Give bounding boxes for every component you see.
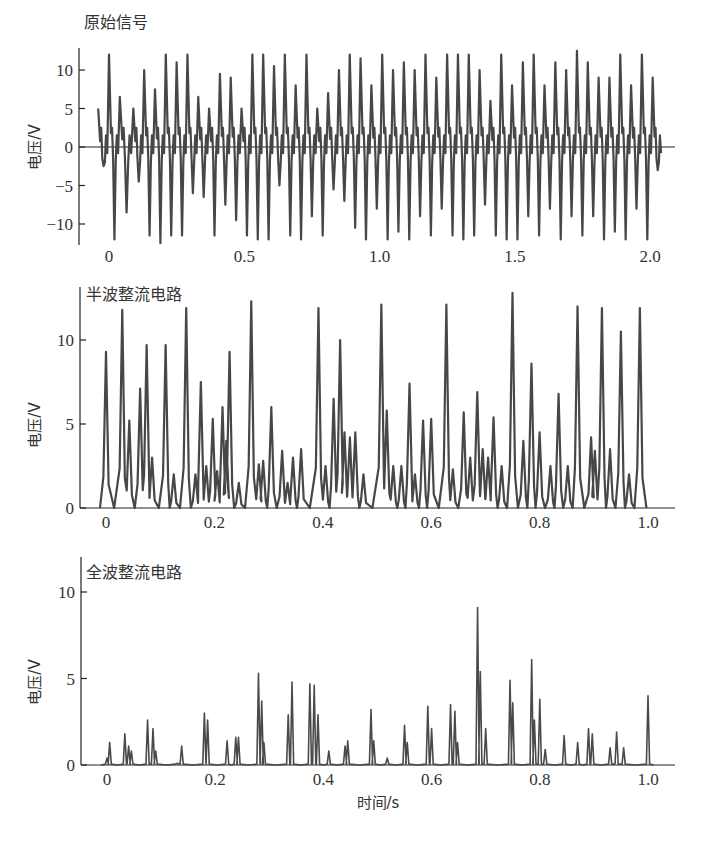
y-tick-label: −10 bbox=[46, 215, 73, 234]
x-tick-label: 0.6 bbox=[421, 770, 442, 789]
x-tick-label: 0 bbox=[103, 770, 112, 789]
y-tick-label: 5 bbox=[67, 670, 76, 689]
trace-full-wave bbox=[101, 608, 654, 765]
panel-title-raw: 原始信号 bbox=[84, 13, 148, 32]
x-tick-label: 0.6 bbox=[421, 513, 442, 532]
figure: 原始信号 电压/V 1050−5−1000.51.01.52.0 半波整流电路 … bbox=[0, 0, 701, 841]
y-tick-label: 0 bbox=[67, 756, 76, 775]
x-tick-label: 0.4 bbox=[313, 770, 335, 789]
y-tick-label: 10 bbox=[57, 331, 74, 350]
x-axis-label: 时间/s bbox=[357, 794, 400, 812]
x-tick-label: 0 bbox=[105, 247, 114, 266]
figure-canvas: 原始信号 电压/V 1050−5−1000.51.01.52.0 半波整流电路 … bbox=[0, 0, 701, 841]
x-tick-label: 0.5 bbox=[234, 247, 255, 266]
y-tick-label: 0 bbox=[66, 499, 75, 518]
rectified-signal-line bbox=[101, 608, 654, 765]
x-tick-label: 1.0 bbox=[637, 513, 658, 532]
panel-half-wave: 半波整流电路 电压/V 105000.20.40.60.81.0 bbox=[26, 285, 675, 532]
x-tick-label: 0.2 bbox=[204, 513, 225, 532]
rectified-signal-line bbox=[100, 293, 646, 508]
y-axis-label-raw: 电压/V bbox=[26, 124, 44, 170]
panel-title-half-wave: 半波整流电路 bbox=[86, 285, 182, 304]
x-tick-label: 0.8 bbox=[529, 513, 550, 532]
y-tick-label: 10 bbox=[58, 583, 75, 602]
y-axis-label-full-wave: 电压/V bbox=[26, 659, 44, 705]
y-tick-label: 10 bbox=[56, 61, 73, 80]
panel-full-wave: 全波整流电路 电压/V 105000.20.40.60.81.0 时间/s bbox=[26, 557, 675, 812]
x-tick-label: 0 bbox=[102, 513, 111, 532]
x-tick-label: 2.0 bbox=[639, 247, 660, 266]
x-tick-label: 0.4 bbox=[312, 513, 334, 532]
y-axis-label-half-wave: 电压/V bbox=[26, 402, 44, 448]
x-tick-label: 0.2 bbox=[205, 770, 226, 789]
panel-raw-signal: 原始信号 电压/V 1050−5−1000.51.01.52.0 bbox=[26, 13, 675, 266]
axes-full-wave: 105000.20.40.60.81.0 bbox=[58, 557, 675, 789]
y-tick-label: −5 bbox=[55, 177, 73, 196]
x-tick-label: 1.0 bbox=[637, 770, 658, 789]
y-tick-label: 5 bbox=[65, 100, 74, 119]
panel-title-full-wave: 全波整流电路 bbox=[86, 563, 182, 582]
y-tick-label: 5 bbox=[66, 415, 75, 434]
x-tick-label: 0.8 bbox=[529, 770, 550, 789]
x-tick-label: 1.0 bbox=[369, 247, 390, 266]
x-tick-label: 1.5 bbox=[504, 247, 525, 266]
y-tick-label: 0 bbox=[65, 138, 74, 157]
trace-half-wave bbox=[100, 293, 646, 508]
